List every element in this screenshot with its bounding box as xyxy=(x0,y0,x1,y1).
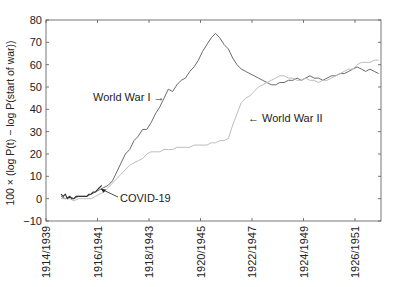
x-tick-label: 1920/1945 xyxy=(195,226,207,278)
x-tick-label: 1924/1949 xyxy=(298,226,310,278)
y-tick-label: −10 xyxy=(23,215,42,227)
y-tick-label: 50 xyxy=(30,81,42,93)
series-layer xyxy=(61,33,379,201)
y-axis: −1001020304050607080 xyxy=(23,14,381,227)
annotation-world-war-i: World War I → xyxy=(93,91,165,103)
y-tick-label: 80 xyxy=(30,14,42,26)
y-tick-label: 10 xyxy=(30,170,42,182)
y-tick-label: 70 xyxy=(30,36,42,48)
y-tick-label: 60 xyxy=(30,59,42,71)
x-axis: 1914/19391916/19411918/19431920/19451922… xyxy=(40,20,361,278)
x-tick-label: 1922/1947 xyxy=(246,226,258,278)
annotation-covid-19: COVID-19 xyxy=(120,192,171,204)
y-axis-label: 100 × (log P(t) − log P(start of war)) xyxy=(4,40,16,205)
annotation-world-war-ii: ← World War II xyxy=(248,112,323,124)
y-tick-label: 20 xyxy=(30,148,42,160)
line-chart: −1001020304050607080 1914/19391916/19411… xyxy=(0,0,393,287)
y-tick-label: 30 xyxy=(30,126,42,138)
y-tick-label: 40 xyxy=(30,103,42,115)
annotation-layer: World War I → ← World War II COVID-19 xyxy=(93,91,323,204)
series-world-war-i xyxy=(61,33,379,198)
x-tick-label: 1914/1939 xyxy=(40,226,52,278)
x-tick-label: 1918/1943 xyxy=(143,226,155,278)
x-tick-label: 1916/1941 xyxy=(92,226,104,278)
x-tick-label: 1926/1951 xyxy=(349,226,361,278)
y-tick-label: 0 xyxy=(36,193,42,205)
series-world-war-ii xyxy=(61,60,379,201)
